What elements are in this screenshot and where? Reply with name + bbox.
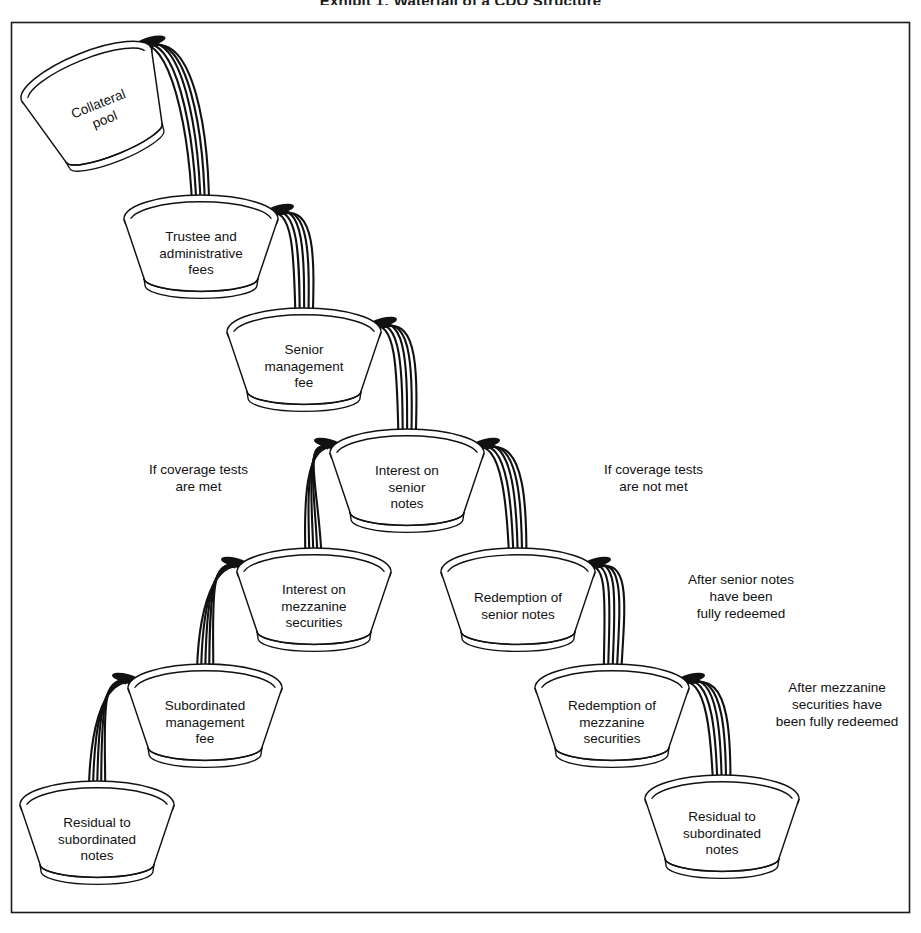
- bucket-interest-on-senior-notes: Interest on senior notes: [330, 427, 484, 537]
- pail-icon: [441, 546, 595, 656]
- pail-icon: [128, 662, 282, 772]
- annot-coverage-not-met: If coverage tests are not met: [566, 461, 741, 495]
- bucket-senior-management-fee: Senior management fee: [227, 306, 381, 416]
- pail-icon: [535, 662, 689, 772]
- pail-icon: [20, 779, 174, 889]
- annot-mezzanine-redeemed: After mezzanine securities have been ful…: [757, 679, 917, 730]
- bucket-residual-subordinated-left: Residual to subordinated notes: [20, 779, 174, 889]
- bucket-residual-subordinated-right: Residual to subordinated notes: [645, 773, 799, 883]
- pail-icon: [124, 193, 278, 303]
- pail-icon: [237, 546, 391, 656]
- pail-icon: [227, 306, 381, 416]
- bucket-redemption-senior-notes: Redemption of senior notes: [441, 546, 595, 656]
- pail-icon: [645, 773, 799, 883]
- pail-icon: [330, 427, 484, 537]
- annot-senior-redeemed: After senior notes have been fully redee…: [656, 571, 826, 622]
- bucket-trustee-admin-fees: Trustee and administrative fees: [124, 193, 278, 303]
- bucket-subordinated-management-fee: Subordinated management fee: [128, 662, 282, 772]
- waterfall-diagram-page: Exhibit 1: Waterfall of a CDO Structure …: [0, 0, 921, 933]
- bucket-interest-on-mezzanine: Interest on mezzanine securities: [237, 546, 391, 656]
- bucket-redemption-mezzanine: Redemption of mezzanine securities: [535, 662, 689, 772]
- annot-coverage-met: If coverage tests are met: [116, 461, 281, 495]
